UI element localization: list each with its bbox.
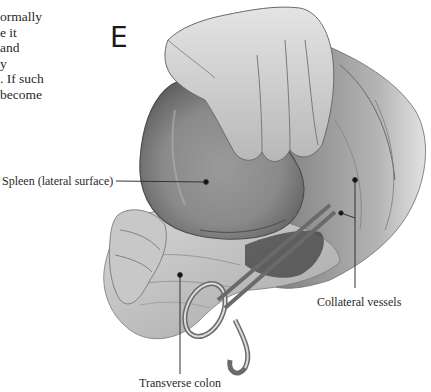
anatomical-illustration xyxy=(0,0,431,392)
label-spleen: Spleen (lateral surface) xyxy=(2,175,113,187)
label-transverse-colon: Transverse colon xyxy=(139,377,221,389)
label-collateral-vessels: Collateral vessels xyxy=(317,296,401,308)
